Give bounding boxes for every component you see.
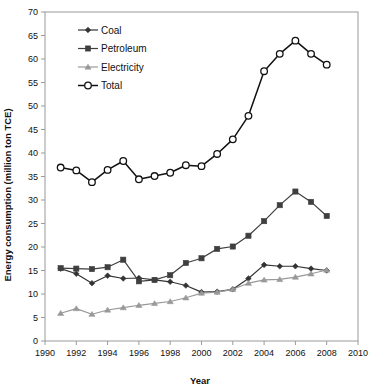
legend-label: Petroleum: [101, 43, 147, 54]
y-tick-label: 65: [28, 31, 38, 41]
y-tick-label: 55: [28, 78, 38, 88]
chart-background: [0, 0, 375, 388]
data-point: [183, 162, 190, 169]
x-tick-label: 1992: [66, 348, 86, 358]
data-point: [199, 256, 204, 261]
y-tick-label: 30: [28, 195, 38, 205]
data-point: [214, 151, 221, 158]
data-point: [261, 68, 268, 75]
data-point: [152, 277, 157, 282]
x-tick-label: 1998: [160, 348, 180, 358]
data-point: [276, 51, 283, 58]
data-point: [74, 266, 79, 271]
legend-marker-circle-open: [85, 82, 92, 89]
data-point: [121, 257, 126, 262]
data-point: [277, 203, 282, 208]
data-point: [293, 189, 298, 194]
energy-consumption-line-chart: 0510152025303540455055606570 19901992199…: [0, 0, 375, 388]
data-point: [323, 61, 330, 68]
data-point: [292, 37, 299, 44]
x-tick-label: 2000: [191, 348, 211, 358]
data-point: [168, 273, 173, 278]
data-point: [136, 279, 141, 284]
y-tick-label: 0: [33, 336, 38, 346]
y-tick-label: 25: [28, 219, 38, 229]
data-point: [73, 167, 80, 174]
data-point: [167, 169, 174, 176]
data-point: [89, 179, 96, 186]
legend-marker-square: [85, 46, 90, 51]
x-tick-label: 1994: [98, 348, 118, 358]
data-point: [246, 233, 251, 238]
data-point: [308, 51, 315, 58]
data-point: [215, 246, 220, 251]
data-point: [105, 265, 110, 270]
data-point: [151, 173, 158, 180]
data-point: [58, 266, 63, 271]
y-tick-label: 45: [28, 125, 38, 135]
y-tick-label: 15: [28, 266, 38, 276]
x-tick-label: 1990: [35, 348, 55, 358]
x-tick-label: 1996: [129, 348, 149, 358]
data-point: [89, 266, 94, 271]
data-point: [324, 213, 329, 218]
chart-container: 0510152025303540455055606570 19901992199…: [0, 0, 375, 388]
data-point: [262, 219, 267, 224]
data-point: [308, 199, 313, 204]
data-point: [230, 244, 235, 249]
x-tick-label: 2006: [285, 348, 305, 358]
y-tick-label: 5: [33, 313, 38, 323]
y-tick-label: 70: [28, 7, 38, 17]
x-tick-label: 2004: [254, 348, 274, 358]
data-point: [230, 136, 237, 143]
y-tick-label: 40: [28, 148, 38, 158]
y-tick-label: 60: [28, 54, 38, 64]
y-tick-label: 50: [28, 101, 38, 111]
data-point: [120, 158, 127, 165]
x-axis-title: Year: [190, 375, 210, 386]
legend-label: Electricity: [101, 62, 144, 73]
legend-label: Coal: [101, 25, 122, 36]
data-point: [136, 176, 143, 183]
data-point: [245, 113, 252, 120]
data-point: [198, 163, 205, 170]
data-point: [57, 164, 64, 171]
y-axis-title: Energy consumption (million ton TCE): [2, 108, 13, 281]
x-tick-label: 2008: [317, 348, 337, 358]
y-tick-label: 35: [28, 172, 38, 182]
legend-label: Total: [101, 80, 122, 91]
data-point: [183, 260, 188, 265]
y-tick-label: 10: [28, 289, 38, 299]
x-tick-label: 2010: [348, 348, 368, 358]
data-point: [104, 167, 111, 174]
y-tick-label: 20: [28, 242, 38, 252]
x-tick-label: 2002: [223, 348, 243, 358]
